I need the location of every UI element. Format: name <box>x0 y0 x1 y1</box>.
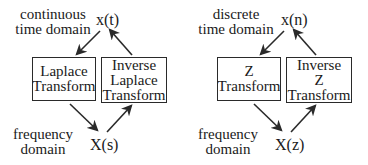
laplace-diagram: continuous time domain x(t) Laplace Tran… <box>0 0 184 165</box>
forward-box-line1: Z <box>244 64 253 79</box>
arrow-inverse-to-time <box>110 30 132 55</box>
inverse-box-line1: Inverse <box>112 58 156 73</box>
time-signal: x(n) <box>281 12 308 28</box>
time-domain-label-line1: discrete <box>198 7 274 22</box>
inverse-box-line2: Z <box>314 73 323 88</box>
laplace-transform-box: Laplace Transform <box>32 57 96 101</box>
frequency-domain-label: frequency domain <box>193 127 263 157</box>
inverse-z-transform-box: Inverse Z Transform <box>286 57 352 103</box>
frequency-domain-label-line2: domain <box>8 142 78 157</box>
frequency-domain-label-line1: frequency <box>193 127 263 142</box>
z-transform-box: Z Transform <box>217 57 281 101</box>
frequency-domain-label-line1: frequency <box>8 127 78 142</box>
forward-box-line1: Laplace <box>40 64 87 79</box>
time-domain-label-line2: time domain <box>14 22 92 37</box>
inverse-laplace-transform-box: Inverse Laplace Transform <box>101 57 167 103</box>
inverse-box-line3: Transform <box>288 88 351 103</box>
inverse-box-line3: Transform <box>103 88 166 103</box>
forward-box-line2: Transform <box>218 79 281 94</box>
arrow-freq-to-inverse <box>107 106 131 132</box>
time-domain-label: continuous time domain <box>14 7 92 37</box>
inverse-box-line2: Laplace <box>110 73 157 88</box>
arrow-freq-to-inverse <box>291 106 315 132</box>
time-domain-label-line2: time domain <box>198 22 274 37</box>
frequency-signal: X(s) <box>90 137 118 153</box>
arrow-inverse-to-time <box>294 30 316 55</box>
time-domain-label-line1: continuous <box>14 7 92 22</box>
frequency-domain-label-line2: domain <box>193 142 263 157</box>
forward-box-line2: Transform <box>33 79 96 94</box>
frequency-domain-label: frequency domain <box>8 127 78 157</box>
frequency-signal: X(z) <box>275 137 304 153</box>
time-signal: x(t) <box>96 12 119 28</box>
inverse-box-line1: Inverse <box>297 58 341 73</box>
time-domain-label: discrete time domain <box>198 7 274 37</box>
z-transform-diagram: discrete time domain x(n) Z Transform In… <box>184 0 368 165</box>
